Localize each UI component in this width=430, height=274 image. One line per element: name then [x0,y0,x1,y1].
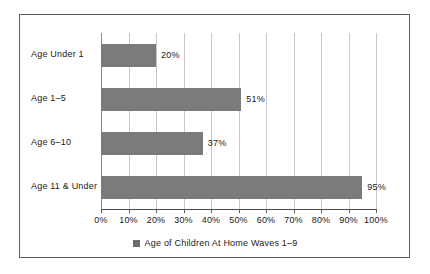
x-tick-label-90%: 90% [339,215,358,225]
x-tick-10% [129,209,130,213]
x-tick-label-10%: 10% [119,215,138,225]
category-label-2: Age 6–10 [31,137,71,147]
category-label-3: Age 11 & Under [31,181,97,191]
bar-1[interactable] [101,88,241,111]
plot-area: 20%51%37%95% [101,33,376,209]
x-tick-80% [321,209,322,213]
legend-swatch-icon [133,240,140,247]
bar-2[interactable] [101,132,203,155]
x-tick-label-80%: 80% [312,215,331,225]
bar-value-label-0: 20% [156,50,180,60]
x-tick-40% [211,209,212,213]
bar-value-label-3: 95% [362,182,386,192]
bar-row: 95% [101,176,376,199]
x-tick-100% [376,209,377,213]
x-tick-60% [266,209,267,213]
x-tick-label-70%: 70% [284,215,303,225]
bar-row: 20% [101,44,376,67]
chart-legend: Age of Children At Home Waves 1–9 [0,238,430,248]
x-tick-label-40%: 40% [202,215,221,225]
x-tick-0% [101,209,102,213]
bar-chart-figure: 20%51%37%95% Age Under 1 Age 1–5 Age 6–1… [0,0,430,274]
x-tick-label-60%: 60% [257,215,276,225]
bar-0[interactable] [101,44,156,67]
x-tick-70% [294,209,295,213]
x-tick-label-30%: 30% [174,215,193,225]
category-label-1: Age 1–5 [31,93,66,103]
legend-label: Age of Children At Home Waves 1–9 [145,238,298,248]
x-tick-label-0%: 0% [94,215,107,225]
x-tick-label-100%: 100% [364,215,388,225]
bar-value-label-2: 37% [203,138,227,148]
x-tick-label-50%: 50% [229,215,248,225]
x-tick-label-20%: 20% [147,215,166,225]
x-tick-30% [184,209,185,213]
x-tick-20% [156,209,157,213]
bar-row: 37% [101,132,376,155]
bar-value-label-1: 51% [241,94,265,104]
bar-3[interactable] [101,176,362,199]
x-tick-50% [239,209,240,213]
category-label-0: Age Under 1 [31,49,84,59]
x-tick-90% [349,209,350,213]
bar-row: 51% [101,88,376,111]
